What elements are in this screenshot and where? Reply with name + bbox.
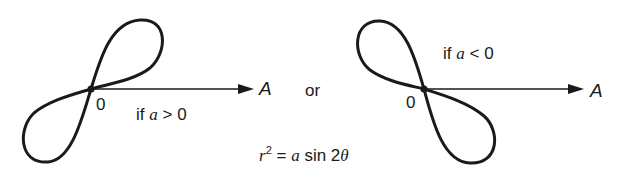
left-condition: if a > 0 bbox=[136, 105, 187, 125]
right-condition-prefix: if bbox=[443, 44, 452, 63]
connector-or: or bbox=[305, 81, 320, 101]
right-condition-op: < bbox=[469, 44, 479, 63]
left-axis-arrow bbox=[91, 84, 254, 94]
left-condition-prefix: if bbox=[136, 105, 145, 124]
right-condition-var: a bbox=[456, 44, 465, 63]
left-origin-label: 0 bbox=[96, 95, 105, 115]
equation-lhs-exponent: 2 bbox=[266, 144, 272, 156]
right-condition: if a < 0 bbox=[443, 44, 494, 64]
left-condition-var: a bbox=[149, 105, 158, 124]
equation-rhs-func: sin 2 bbox=[304, 146, 340, 165]
right-condition-val: 0 bbox=[484, 44, 493, 63]
equation-rhs-var: a bbox=[291, 146, 300, 165]
right-axis-label: A bbox=[590, 80, 603, 102]
left-condition-val: 0 bbox=[177, 105, 186, 124]
left-condition-op: > bbox=[162, 105, 172, 124]
equation-equals: = bbox=[276, 146, 286, 165]
equation-rhs-angle: θ bbox=[340, 146, 348, 165]
equation: r2 = a sin 2θ bbox=[259, 144, 349, 166]
right-lemniscate bbox=[358, 21, 495, 163]
equation-lhs-var: r bbox=[259, 146, 266, 165]
right-axis-arrow bbox=[424, 84, 584, 94]
left-axis-label: A bbox=[259, 78, 272, 100]
right-origin-label: 0 bbox=[406, 93, 415, 113]
